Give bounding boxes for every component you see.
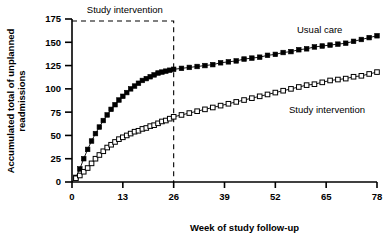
data-point-filled-square [304,47,309,52]
data-point-filled-square [312,45,317,50]
x-tick-label: 39 [219,191,230,202]
x-tick-label: 78 [372,191,383,202]
y-tick-label: 75 [50,107,61,118]
data-point-filled-square [226,60,231,65]
y-tick-label: 125 [45,60,62,71]
data-point-open-square [195,109,200,114]
data-point-filled-square [81,156,86,161]
data-point-open-square [171,115,176,120]
data-point-open-square [281,88,286,93]
data-point-filled-square [343,41,348,46]
data-point-filled-square [187,65,192,70]
chart-container: 0255075100125150175 0132639526578 Week o… [0,0,390,239]
data-point-filled-square [351,39,356,44]
data-point-filled-square [195,64,200,69]
y-axis-ticks [65,19,72,182]
intervention-period-band [72,21,174,182]
data-point-open-square [250,96,255,101]
data-point-open-square [328,78,333,83]
data-point-open-square [242,98,247,103]
data-point-filled-square [97,125,102,130]
data-point-filled-square [89,139,94,144]
data-point-open-square [179,113,184,118]
data-point-filled-square [101,118,106,123]
series-study-intervention [72,70,379,182]
data-point-open-square [85,166,90,171]
data-point-filled-square [336,42,341,47]
data-point-filled-square [250,56,255,61]
data-point-filled-square [210,62,215,67]
data-point-filled-square [281,50,286,55]
y-axis-title-line-2: readmissions [16,70,27,131]
data-point-filled-square [203,63,208,68]
data-point-filled-square [93,131,98,136]
y-tick-label: 0 [56,176,61,187]
data-point-open-square [89,161,94,166]
y-tick-label: 25 [50,153,61,164]
data-point-open-square [304,83,309,88]
data-point-filled-square [375,33,380,38]
data-point-open-square [273,90,278,95]
x-tick-label: 52 [270,191,281,202]
data-point-open-square [312,82,317,87]
intervention-band-dashed-outline [72,21,174,182]
data-point-open-square [226,101,231,106]
y-tick-label: 50 [50,130,61,141]
data-point-filled-square [367,35,372,40]
data-point-filled-square [171,67,176,72]
data-point-filled-square [234,59,239,64]
data-point-open-square [320,80,325,85]
y-tick-label: 175 [45,13,62,24]
data-point-filled-square [359,37,364,42]
x-tick-label: 26 [168,191,179,202]
data-point-filled-square [105,113,110,118]
data-point-open-square [234,100,239,105]
data-point-open-square [359,74,364,79]
y-axis-title-line-1: Accumulated total of unplanned [5,29,16,174]
data-point-open-square [203,107,208,112]
study-intervention-markers [74,70,380,181]
x-tick-label: 0 [69,191,74,202]
readmissions-line-chart: 0255075100125150175 0132639526578 Week o… [0,0,390,239]
data-point-filled-square [289,49,294,54]
data-point-open-square [210,105,215,110]
data-point-open-square [265,92,270,97]
x-axis-tick-labels: 0132639526578 [69,191,382,202]
data-point-open-square [343,76,348,81]
intervention-band-label: Study intervention [87,4,163,15]
data-point-filled-square [273,52,278,57]
data-point-filled-square [218,60,223,65]
x-tick-label: 65 [321,191,332,202]
x-tick-label: 13 [118,191,129,202]
data-point-filled-square [113,102,118,107]
data-point-open-square [218,103,223,108]
data-point-filled-square [296,47,301,52]
data-point-open-square [375,70,380,75]
data-point-filled-square [257,55,262,60]
data-point-open-square [351,74,356,79]
data-point-filled-square [242,57,247,62]
y-tick-label: 100 [45,83,61,94]
series-label-study-intervention: Study intervention [289,104,365,115]
data-point-open-square [289,87,294,92]
data-point-open-square [187,111,192,116]
data-point-filled-square [179,66,184,71]
y-tick-label: 150 [45,37,61,48]
data-point-filled-square [109,107,114,112]
data-point-open-square [296,85,301,90]
data-point-open-square [336,77,341,82]
data-point-filled-square [265,53,270,58]
x-axis-ticks [72,182,377,188]
series-label-usual-care: Usual care [297,24,342,35]
data-point-open-square [367,72,372,77]
data-point-open-square [257,94,262,99]
x-axis-title: Week of study follow-up [190,222,299,233]
study-intervention-line [72,72,377,182]
y-axis-tick-labels: 0255075100125150175 [45,13,62,187]
data-point-filled-square [85,147,90,152]
data-point-filled-square [328,43,333,48]
data-point-filled-square [320,44,325,49]
